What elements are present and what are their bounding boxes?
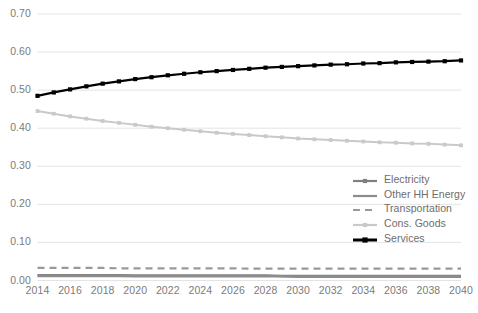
data-point-marker <box>443 143 447 147</box>
legend-key-icon <box>352 202 378 214</box>
legend-item[interactable]: Transportation <box>352 201 470 216</box>
x-axis-tick-label: 2020 <box>118 284 152 296</box>
x-axis-tick-label: 2032 <box>314 284 348 296</box>
data-point-marker <box>394 60 398 64</box>
legend-item-label: Electricity <box>384 173 429 185</box>
y-axis-tick-label: 0.40 <box>1 121 31 133</box>
data-point-marker <box>133 77 137 81</box>
data-point-marker <box>166 126 170 130</box>
x-axis-tick-label: 2024 <box>183 284 217 296</box>
legend-item[interactable]: Services <box>352 230 470 245</box>
data-point-marker <box>427 142 431 146</box>
data-point-marker <box>52 112 56 116</box>
data-point-marker <box>280 135 284 139</box>
legend-key-icon <box>352 217 378 229</box>
data-point-marker <box>68 87 72 91</box>
data-point-marker <box>459 143 463 147</box>
chart-legend: ElectricityOther HH EnergyTransportation… <box>352 172 470 245</box>
data-point-marker <box>329 138 333 142</box>
legend-item-label: Services <box>384 232 425 244</box>
legend-item-label: Other HH Energy <box>384 188 465 200</box>
data-point-marker <box>361 61 365 65</box>
legend-key-icon <box>352 188 378 200</box>
data-point-marker <box>443 59 447 63</box>
data-point-marker <box>84 117 88 121</box>
y-axis-tick-label: 0.10 <box>1 235 31 247</box>
legend-item[interactable]: Electricity <box>352 172 470 187</box>
y-axis-tick-label: 0.50 <box>1 83 31 95</box>
x-axis-tick-label: 2034 <box>346 284 380 296</box>
data-point-marker <box>150 125 154 129</box>
x-axis-tick-label: 2036 <box>379 284 413 296</box>
data-point-marker <box>182 72 186 76</box>
data-point-marker <box>410 142 414 146</box>
data-point-marker <box>198 129 202 133</box>
y-axis-tick-label: 0.20 <box>1 197 31 209</box>
x-axis-tick-label: 2028 <box>249 284 283 296</box>
data-point-marker <box>296 137 300 141</box>
data-point-marker <box>263 66 267 70</box>
x-axis-tick-label: 2040 <box>444 284 478 296</box>
x-axis-tick-label: 2026 <box>216 284 250 296</box>
data-point-marker <box>394 141 398 145</box>
data-point-marker <box>296 64 300 68</box>
data-point-marker <box>410 60 414 64</box>
data-point-marker <box>35 94 39 98</box>
data-point-marker <box>312 63 316 67</box>
data-point-marker <box>247 67 251 71</box>
data-point-marker <box>459 58 463 62</box>
x-axis-tick-label: 2014 <box>21 284 55 296</box>
data-point-marker <box>313 137 317 141</box>
data-point-marker <box>361 140 365 144</box>
x-axis-tick-label: 2022 <box>151 284 185 296</box>
data-point-marker <box>182 128 186 132</box>
data-point-marker <box>345 62 349 66</box>
legend-key-icon <box>352 173 378 185</box>
series-line-other-hh-energy <box>38 276 462 277</box>
legend-item-label: Cons. Goods <box>384 217 446 229</box>
data-point-marker <box>36 109 40 113</box>
legend-item[interactable]: Cons. Goods <box>352 216 470 231</box>
data-point-marker <box>101 82 105 86</box>
data-point-marker <box>133 123 137 127</box>
x-axis-tick-label: 2016 <box>53 284 87 296</box>
y-axis-tick-label: 0.30 <box>1 159 31 171</box>
legend-key-icon <box>352 232 378 244</box>
data-point-marker <box>280 65 284 69</box>
legend-item[interactable]: Other HH Energy <box>352 187 470 202</box>
data-point-marker <box>329 63 333 67</box>
data-point-marker <box>198 70 202 74</box>
series-markers <box>35 58 463 147</box>
data-point-marker <box>101 119 105 123</box>
data-point-marker <box>378 140 382 144</box>
x-axis-tick-label: 2018 <box>86 284 120 296</box>
x-axis-tick-label: 2038 <box>411 284 445 296</box>
data-point-marker <box>231 132 235 136</box>
series-line-transportation <box>38 268 462 269</box>
data-point-marker <box>264 134 268 138</box>
data-point-marker <box>231 68 235 72</box>
data-point-marker <box>247 133 251 137</box>
data-point-marker <box>215 131 219 135</box>
data-point-marker <box>377 61 381 65</box>
data-point-marker <box>166 73 170 77</box>
data-point-marker <box>345 139 349 143</box>
legend-item-label: Transportation <box>384 202 452 214</box>
data-point-marker <box>149 75 153 79</box>
y-axis-tick-label: 0.60 <box>1 45 31 57</box>
data-point-marker <box>117 79 121 83</box>
y-axis-tick-label: 0.70 <box>1 7 31 19</box>
data-point-marker <box>426 59 430 63</box>
data-point-marker <box>215 69 219 73</box>
data-point-marker <box>117 121 121 125</box>
data-point-marker <box>84 84 88 88</box>
data-point-marker <box>52 90 56 94</box>
x-axis-tick-label: 2030 <box>281 284 315 296</box>
data-point-marker <box>68 115 72 119</box>
